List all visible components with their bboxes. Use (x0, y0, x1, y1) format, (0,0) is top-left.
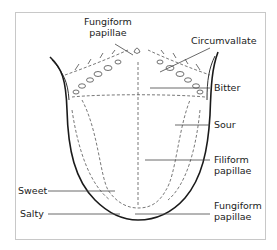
leader-circumvallate (160, 48, 210, 72)
label-circumvallate: Circumvallate (191, 35, 257, 46)
label-bitter: Bitter (214, 82, 240, 93)
tongue-outline (50, 52, 218, 220)
label-sweet: Sweet (18, 185, 47, 196)
label-sour: Sour (214, 119, 236, 130)
label-line: Fungiform (84, 16, 132, 27)
taste-zone-boundaries (65, 50, 210, 208)
label-line: Fungiform (214, 200, 262, 211)
leader-fungiform-top (115, 44, 133, 55)
label-line: papillae (214, 165, 251, 176)
label-filiform: Filiform papillae (214, 154, 251, 176)
label-line: papillae (214, 211, 262, 222)
label-salty: Salty (20, 208, 44, 219)
label-line: papillae (84, 27, 132, 38)
label-fungiform-top: Fungiform papillae (84, 16, 132, 38)
label-line: Filiform (214, 154, 251, 165)
label-fungiform-bottom: Fungiform papillae (214, 200, 262, 222)
leader-lines (48, 44, 210, 214)
